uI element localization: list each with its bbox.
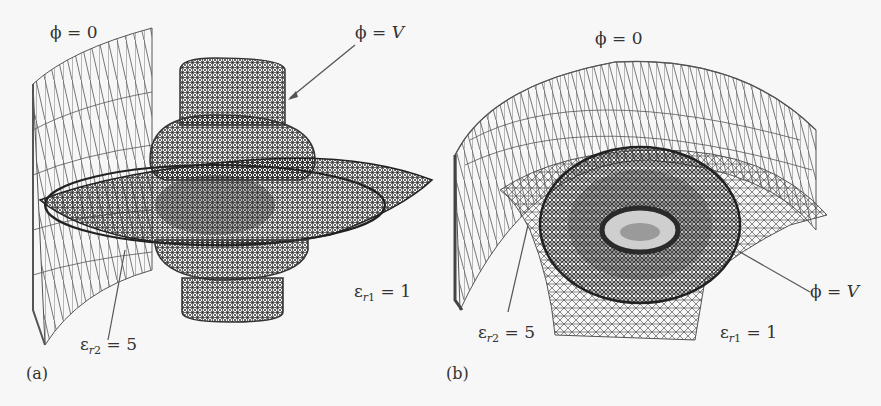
panel-tag-a: (a) [26, 364, 48, 383]
panel-b: ϕ = 0 ϕ = V εr2 = 5 εr1 = 1 (b) [440, 0, 881, 406]
leader-line-eps-r2 [508, 225, 528, 312]
panel-tag-b: (b) [446, 364, 469, 383]
leader-line-phi-v [290, 45, 355, 98]
leader-line-phi-v [740, 252, 810, 292]
label-eps-r1: εr1 = 1 [354, 283, 411, 303]
label-eps-r2: εr2 = 5 [478, 324, 535, 344]
panel-a-mesh-illustration [0, 0, 440, 406]
label-eps-r2: εr2 = 5 [80, 336, 137, 356]
label-eps-r1: εr1 = 1 [720, 324, 777, 344]
inner-conductor-toroid [540, 147, 740, 303]
panel-a: ϕ = 0 ϕ = V εr2 = 5 εr1 = 1 (a) [0, 0, 440, 406]
panel-b-mesh-illustration [440, 0, 881, 406]
label-phi-zero: ϕ = 0 [595, 30, 642, 47]
label-phi-zero: ϕ = 0 [50, 24, 97, 41]
inner-conductor-lower [155, 240, 308, 322]
label-phi-v: ϕ = V [810, 283, 859, 300]
label-phi-v: ϕ = V [355, 24, 404, 41]
